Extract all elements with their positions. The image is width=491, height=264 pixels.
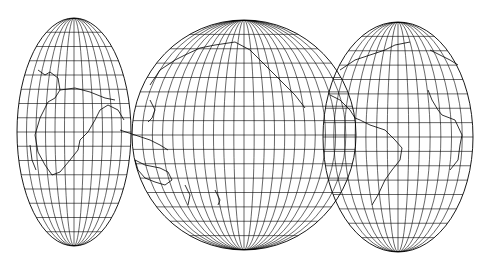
- lobe-americas-atlantic: [323, 22, 473, 252]
- coastlines: [30, 42, 462, 205]
- world-map: [0, 0, 491, 264]
- lobe-pacific-asia-australia: [132, 20, 356, 250]
- graticule: [132, 20, 356, 250]
- graticule: [17, 18, 131, 246]
- lobe-africa-europe-indian-ocean: [17, 18, 131, 246]
- graticule: [323, 22, 473, 252]
